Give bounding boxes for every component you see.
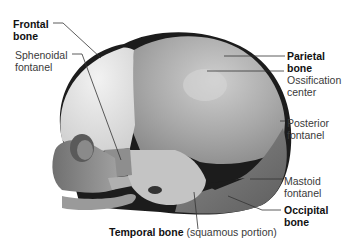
label-posterior-fontanel: Posterior fontanel	[287, 117, 329, 141]
label-ossification-line2: center	[287, 86, 341, 98]
label-posterior-line2: fontanel	[287, 129, 329, 141]
label-occipital-line1: Occipital	[284, 204, 328, 216]
label-occipital-bone: Occipital bone	[284, 204, 328, 228]
label-mastoid-line1: Mastoid	[284, 175, 321, 187]
label-frontal-line2: bone	[13, 30, 49, 42]
label-frontal-line1: Frontal	[13, 18, 49, 30]
label-ossification-line1: Ossification	[287, 74, 341, 86]
label-ossification-center: Ossification center	[287, 74, 341, 98]
label-posterior-line1: Posterior	[287, 117, 329, 129]
label-occipital-line2: bone	[284, 216, 328, 228]
frontal-bone	[60, 48, 135, 151]
label-sphenoidal-fontanel: Sphenoidal fontanel	[15, 49, 68, 73]
label-mastoid-line2: fontanel	[284, 187, 321, 199]
label-parietal-line1: Parietal	[287, 50, 325, 62]
fetal-skull-diagram: Frontal bone Sphenoidal fontanel Parieta…	[0, 0, 345, 249]
label-temporal-main: Temporal bone	[109, 226, 183, 238]
label-sphenoidal-line1: Sphenoidal	[15, 49, 68, 61]
label-temporal-note: (squamous portion)	[186, 226, 276, 238]
label-parietal-bone: Parietal bone	[287, 50, 325, 74]
label-temporal-bone: Temporal bone (squamous portion)	[109, 226, 277, 238]
label-mastoid-fontanel: Mastoid fontanel	[284, 175, 321, 199]
label-sphenoidal-line2: fontanel	[15, 61, 68, 73]
label-frontal-bone: Frontal bone	[13, 18, 49, 42]
label-parietal-line2: bone	[287, 62, 325, 74]
